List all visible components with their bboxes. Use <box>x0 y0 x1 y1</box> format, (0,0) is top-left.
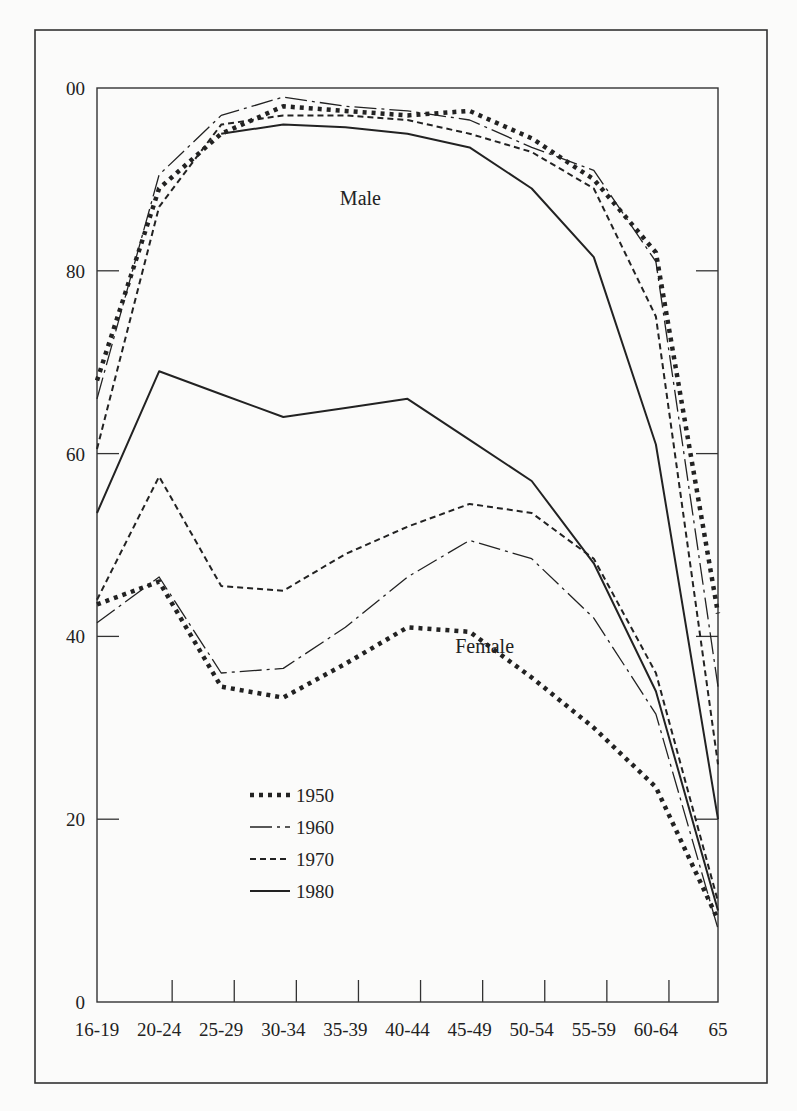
x-tick-label: 25-29 <box>199 1019 243 1040</box>
x-tick-label: 30-34 <box>261 1019 306 1040</box>
series-line-male-1960 <box>97 97 718 687</box>
y-tick-label: 0 <box>76 992 86 1013</box>
y-tick-label: 20 <box>66 809 85 830</box>
x-axis-ticks: 16-1920-2425-2930-3435-3940-4445-4950-54… <box>75 980 728 1040</box>
series-line-female-1960 <box>97 540 718 929</box>
x-tick-label: 60-64 <box>634 1019 679 1040</box>
legend-label-1980: 1980 <box>296 881 334 902</box>
x-tick-label: 45-49 <box>447 1019 491 1040</box>
legend: 1950196019701980 <box>250 785 334 902</box>
x-tick-label: 55-59 <box>572 1019 616 1040</box>
series-layer <box>97 97 718 929</box>
series-line-female-1950 <box>97 582 718 920</box>
chart: 02040608000 16-1920-2425-2930-3435-3940-… <box>0 0 797 1111</box>
y-tick-label: 40 <box>66 626 85 647</box>
x-tick-label: 35-39 <box>323 1019 367 1040</box>
x-tick-label: 40-44 <box>385 1019 430 1040</box>
x-tick-label: 16-19 <box>75 1019 119 1040</box>
series-line-male-1980 <box>221 125 718 820</box>
series-line-male-1950 <box>97 106 718 613</box>
series-line-female-1970 <box>97 477 718 902</box>
y-tick-label: 80 <box>66 261 85 282</box>
legend-label-1950: 1950 <box>296 785 334 806</box>
legend-label-1970: 1970 <box>296 849 334 870</box>
series-line-female-1980 <box>97 371 718 910</box>
plot-frame <box>97 88 718 1002</box>
annotation-female: Female <box>455 635 514 657</box>
annotation-male: Male <box>340 187 381 209</box>
series-line-male-1970 <box>97 115 718 764</box>
y-tick-label: 00 <box>66 78 85 99</box>
outer-frame <box>35 30 767 1083</box>
x-tick-label: 50-54 <box>510 1019 555 1040</box>
legend-label-1960: 1960 <box>296 817 334 838</box>
y-axis-ticks: 02040608000 <box>66 78 718 1013</box>
x-tick-label: 20-24 <box>137 1019 182 1040</box>
x-tick-label: 65 <box>709 1019 728 1040</box>
y-tick-label: 60 <box>66 444 85 465</box>
